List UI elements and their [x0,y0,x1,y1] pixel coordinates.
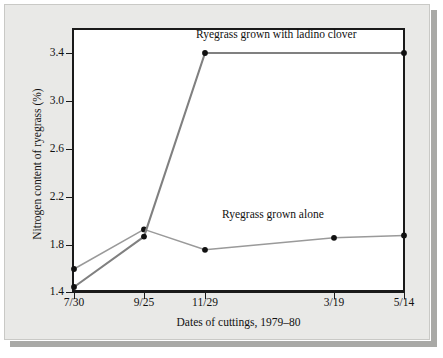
x-axis-label-5-14: 5/14 [374,296,434,308]
y-axis-tick-2.2 [66,197,74,198]
y-axis-tick-1.4 [66,292,74,293]
x-axis-label-9-25: 9/25 [114,296,174,308]
y-axis-tick-3.4 [66,53,74,54]
x-axis-title: Dates of cuttings, 1979–80 [72,316,405,328]
y-axis-tick-2.6 [66,149,74,150]
line-chart: 3.4 3.0 2.6 2.2 1.8 1.4 7/30 9/25 11/29 … [0,0,443,358]
series-annotation-alone: Ryegrass grown alone [222,208,324,220]
x-axis-label-11-29: 11/29 [175,296,235,308]
x-axis-label-7-30: 7/30 [44,296,104,308]
y-axis-title: Nitrogen content of ryegrass (%) [31,49,43,279]
y-axis-tick-1.8 [66,245,74,246]
plot-area-frame [72,28,405,293]
series-annotation-clover: Ryegrass grown with ladino clover [196,28,357,40]
x-axis-label-3-19: 3/19 [304,296,364,308]
y-axis-tick-3.0 [66,101,74,102]
